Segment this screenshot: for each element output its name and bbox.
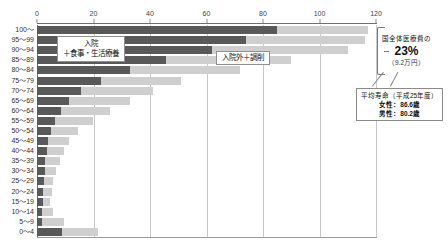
- bar-row: 10〜14: [37, 207, 376, 217]
- bar-row: 30〜34: [37, 166, 376, 176]
- bar-segment-inpatient: [37, 137, 48, 145]
- x-tick-label-120: 120: [370, 9, 382, 18]
- y-axis-label-18: 10〜14: [0, 207, 34, 217]
- bar-row: 60〜64: [37, 106, 376, 116]
- y-axis-label-13: 35〜39: [0, 156, 34, 166]
- bar-row: 55〜59: [37, 116, 376, 126]
- bar-segment-inpatient: [37, 228, 62, 236]
- bar-segment-outpatient: [44, 177, 54, 185]
- x-tick-label-100: 100: [314, 9, 326, 18]
- annotation-share-prefix: 国全体医療費の: [382, 34, 431, 44]
- bar-segment-outpatient: [101, 77, 182, 85]
- x-axis-line: [37, 23, 377, 24]
- leader-line-male: [390, 72, 398, 87]
- bar-row: 5〜9: [37, 217, 376, 227]
- y-axis-label-20: 0〜4: [0, 227, 34, 237]
- bar-segment-outpatient: [51, 127, 78, 135]
- bar-row: 35〜39: [37, 156, 376, 166]
- bar-row: 75〜79: [37, 75, 376, 85]
- bar-segment-inpatient: [37, 77, 101, 85]
- bar-row: 15〜19: [37, 197, 376, 207]
- bar-segment-inpatient: [37, 177, 44, 185]
- y-axis-label-11: 45〜49: [0, 136, 34, 146]
- legend-outpatient-text: 入院外＋調削: [222, 53, 264, 62]
- bar-segment-inpatient: [37, 97, 69, 105]
- y-axis-label-6: 70〜74: [0, 86, 34, 96]
- bar-segment-inpatient: [37, 26, 277, 34]
- bar-segment-outpatient: [61, 107, 110, 115]
- bar-segment-outpatient: [42, 218, 63, 226]
- bar-segment-outpatient: [43, 198, 50, 206]
- annotation-share-sub: （9.2万円）: [382, 58, 431, 68]
- bar-segment-outpatient: [69, 97, 130, 105]
- bar-row: 25〜29: [37, 176, 376, 186]
- bar-row: 80〜84: [37, 65, 376, 75]
- legend-label-inpatient: 入院 ＋食事・生活療養: [57, 36, 125, 62]
- y-axis-label-15: 25〜29: [0, 176, 34, 186]
- y-axis-label-2: 90〜94: [0, 45, 34, 55]
- bar-segment-outpatient: [246, 36, 365, 44]
- annotation-life-female: 女性：86.6歳: [361, 100, 438, 109]
- bar-segment-outpatient: [42, 208, 52, 216]
- bar-segment-inpatient: [37, 107, 61, 115]
- legend-inpatient-line1: 入院: [84, 39, 98, 48]
- bar-segment-inpatient: [37, 167, 45, 175]
- x-tick-label-0: 0: [35, 9, 39, 18]
- bar-segment-outpatient: [43, 188, 51, 196]
- y-axis-label-3: 85〜89: [0, 55, 34, 65]
- x-tick-label-60: 60: [203, 9, 211, 18]
- chart-container: 020406080100120 100〜95〜9990〜9485〜8980〜84…: [0, 0, 448, 246]
- y-axis-label-7: 65〜69: [0, 96, 34, 106]
- bar-row: 50〜54: [37, 126, 376, 136]
- y-axis-label-5: 75〜79: [0, 76, 34, 86]
- bar-segment-outpatient: [45, 157, 59, 165]
- y-axis-label-0: 100〜: [0, 25, 34, 35]
- x-tick-label-20: 20: [90, 9, 98, 18]
- legend-inpatient-line2: ＋食事・生活療養: [63, 49, 119, 58]
- bar-segment-outpatient: [130, 66, 240, 74]
- annotation-life-title: 平均寿命（平成25年度）: [361, 91, 438, 100]
- bar-segment-inpatient: [37, 66, 130, 74]
- bar-segment-inpatient: [37, 127, 51, 135]
- bar-segment-outpatient: [48, 137, 69, 145]
- bar-row: 45〜49: [37, 136, 376, 146]
- y-axis-label-16: 20〜24: [0, 187, 34, 197]
- bar-segment-outpatient: [81, 87, 153, 95]
- bar-row: 100〜: [37, 25, 376, 35]
- y-axis-label-1: 95〜99: [0, 35, 34, 45]
- bar-segment-inpatient: [37, 147, 47, 155]
- bar-row: 65〜69: [37, 96, 376, 106]
- bar-segment-outpatient: [62, 228, 97, 236]
- annotation-life-expectancy: 平均寿命（平成25年度） 女性：86.6歳 男性：80.2歳: [356, 88, 443, 121]
- y-axis-label-14: 30〜34: [0, 166, 34, 176]
- y-axis-label-12: 40〜44: [0, 146, 34, 156]
- annotation-national-share: 国全体医療費の 23% （9.2万円）: [382, 34, 431, 67]
- y-axis-label-9: 55〜59: [0, 116, 34, 126]
- y-axis-label-4: 80〜84: [0, 65, 34, 75]
- annotation-share-value: 23%: [382, 44, 431, 58]
- x-axis-bottom-line: [37, 237, 377, 238]
- bar-segment-outpatient: [55, 117, 93, 125]
- bar-segment-outpatient: [45, 167, 56, 175]
- x-axis-tick-labels: 020406080100120: [37, 9, 376, 23]
- y-axis-label-10: 50〜54: [0, 126, 34, 136]
- bar-segment-outpatient: [277, 26, 367, 34]
- y-axis-label-17: 15〜19: [0, 197, 34, 207]
- bar-row: 40〜44: [37, 146, 376, 156]
- bar-segment-outpatient: [47, 147, 64, 155]
- bar-row: 20〜24: [37, 187, 376, 197]
- legend-label-outpatient: 入院外＋調削: [216, 51, 270, 65]
- annotation-life-male: 男性：80.2歳: [361, 109, 438, 118]
- x-tick-label-80: 80: [259, 9, 267, 18]
- bar-segment-inpatient: [37, 157, 45, 165]
- y-axis-label-8: 60〜64: [0, 106, 34, 116]
- y-axis-label-19: 5〜9: [0, 217, 34, 227]
- bar-segment-inpatient: [37, 87, 81, 95]
- bar-segment-inpatient: [37, 117, 55, 125]
- bar-row: 70〜74: [37, 86, 376, 96]
- x-tick-label-40: 40: [146, 9, 154, 18]
- bar-row: 0〜4: [37, 227, 376, 237]
